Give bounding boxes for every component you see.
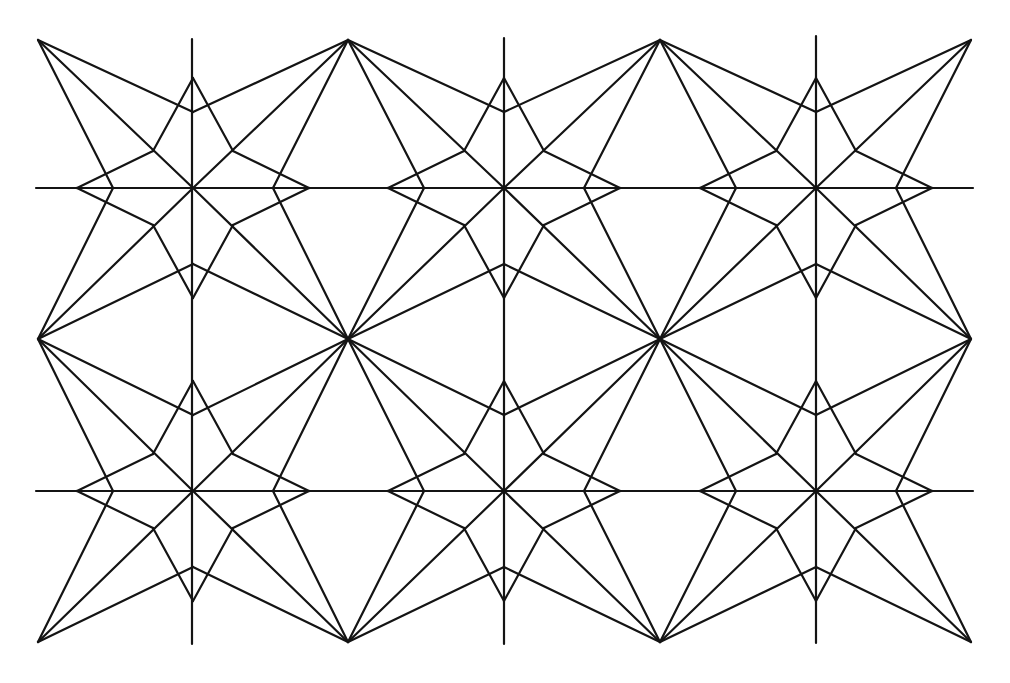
corner-diagonal [816, 40, 971, 188]
corner-to-notch [348, 40, 424, 188]
corner-to-notch [660, 339, 736, 491]
corner-to-notch [816, 339, 971, 415]
corner-to-notch [348, 264, 504, 339]
star-outline-edge [504, 78, 544, 151]
corner-to-notch [504, 40, 660, 112]
corner-to-notch [660, 339, 816, 415]
corner-to-notch [193, 339, 348, 415]
corner-to-notch [816, 264, 971, 339]
corner-to-notch [660, 491, 736, 642]
corner-to-notch [348, 188, 424, 339]
corner-to-notch [348, 339, 504, 415]
corner-diagonal [504, 491, 660, 642]
star-outline-edge [464, 381, 504, 454]
corner-diagonal [38, 188, 193, 339]
corner-to-notch [896, 339, 971, 491]
corner-to-notch [896, 188, 971, 339]
corner-to-notch [348, 40, 504, 112]
star-outline-edge [504, 528, 544, 601]
star-outline-edge [153, 381, 193, 454]
corner-to-notch [504, 264, 660, 339]
star-outline-edge [153, 528, 193, 601]
star-outline-edge [388, 491, 464, 528]
star-outline-edge [816, 528, 856, 601]
corner-to-notch [584, 339, 660, 491]
star-outline-edge [388, 454, 464, 491]
star-outline-edge [388, 188, 464, 225]
star-outline-edge [544, 454, 620, 491]
corner-to-notch [348, 491, 424, 642]
star-outline-edge [193, 381, 233, 454]
corner-diagonal [348, 188, 504, 339]
corner-diagonal [816, 491, 971, 642]
star-outline-edge [700, 188, 776, 225]
corner-diagonal [193, 188, 348, 339]
star-outline-edge [544, 491, 620, 528]
axis-lines [36, 36, 973, 644]
star-outline-edge [856, 491, 932, 528]
star-outline-edge [700, 151, 776, 188]
corner-diagonal [38, 491, 193, 642]
star-outline-edge [77, 151, 153, 188]
corner-to-notch [660, 40, 736, 188]
star-outline-edge [193, 78, 233, 151]
star-outline-edge [193, 225, 233, 298]
corner-to-notch [896, 40, 971, 188]
star-outline-edge [464, 225, 504, 298]
corner-diagonal [193, 491, 348, 642]
corner-diagonal [193, 339, 348, 491]
corner-diagonal [660, 339, 816, 491]
star-outline-edge [464, 78, 504, 151]
corner-to-notch [38, 339, 113, 491]
corner-to-notch [273, 339, 348, 491]
star-outline-edge [544, 151, 620, 188]
star-outline-edge [700, 454, 776, 491]
corner-to-notch [584, 188, 660, 339]
corner-to-notch [273, 40, 348, 188]
star-outline-edge [233, 454, 309, 491]
star-outline-edge [77, 454, 153, 491]
corner-diagonal [348, 40, 504, 188]
star-outline-edge [816, 78, 856, 151]
corner-to-notch [660, 567, 816, 642]
star-outline-edge [233, 151, 309, 188]
star-outline-edge [776, 381, 816, 454]
corner-diagonal [660, 188, 816, 339]
corner-to-notch [348, 339, 424, 491]
corner-to-notch [504, 567, 660, 642]
corner-to-notch [816, 567, 971, 642]
corner-to-notch [660, 264, 816, 339]
star-outline-edge [816, 225, 856, 298]
corner-to-notch [38, 264, 193, 339]
star-outline-edge [544, 188, 620, 225]
corner-diagonal [660, 491, 816, 642]
corner-to-notch [38, 40, 113, 188]
star-outline-edge [776, 528, 816, 601]
corner-to-notch [660, 40, 816, 112]
corner-diagonal [504, 339, 660, 491]
corner-diagonal [38, 40, 193, 188]
star-outline-edge [856, 151, 932, 188]
star-outline-edge [153, 225, 193, 298]
corner-diagonal [660, 40, 816, 188]
star-outline-edge [153, 78, 193, 151]
corner-diagonal [348, 491, 504, 642]
corner-diagonal [504, 40, 660, 188]
corner-to-notch [38, 188, 113, 339]
corner-diagonal [816, 188, 971, 339]
corner-to-notch [584, 491, 660, 642]
corner-diagonal [348, 339, 504, 491]
star-outline-edge [193, 528, 233, 601]
star-outline-edge [700, 491, 776, 528]
star-outline-edge [388, 151, 464, 188]
corner-to-notch [348, 567, 504, 642]
corner-to-notch [660, 188, 736, 339]
star-outline-edge [776, 78, 816, 151]
star-outline-edge [856, 454, 932, 491]
corner-diagonal [504, 188, 660, 339]
star-outline-edge [816, 381, 856, 454]
star-outline-edge [776, 225, 816, 298]
corner-to-notch [273, 491, 348, 642]
star-outline-edge [464, 528, 504, 601]
corner-diagonal [38, 339, 193, 491]
